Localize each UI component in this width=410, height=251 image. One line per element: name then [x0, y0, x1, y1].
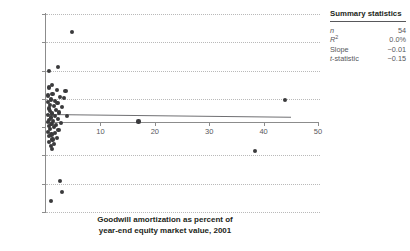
- gridline: [46, 42, 320, 43]
- y-tick-mark: [42, 42, 45, 43]
- data-point: [59, 121, 63, 125]
- data-point: [70, 30, 74, 34]
- summary-statistic-label: t-statistic: [330, 54, 359, 63]
- y-tick-mark: [42, 212, 45, 213]
- data-point: [50, 92, 54, 96]
- summary-statistic-value: 54: [398, 26, 406, 35]
- y-tick-mark: [42, 14, 45, 15]
- x-tick-mark: [318, 122, 319, 126]
- data-point: [65, 114, 69, 118]
- data-point: [55, 136, 59, 140]
- summary-statistic-label: n: [330, 26, 334, 35]
- data-point: [136, 119, 140, 123]
- summary-statistics-title: Summary statistics: [330, 9, 406, 21]
- x-tick-label: 40: [252, 127, 276, 136]
- data-point: [253, 149, 257, 153]
- summary-statistic-row: Slope−0.01: [330, 45, 406, 54]
- gridline: [46, 212, 320, 213]
- x-tick-mark: [155, 122, 156, 126]
- gridline: [46, 71, 320, 72]
- summary-statistic-row: n54: [330, 26, 406, 35]
- summary-statistics-panel: Summary statistics n54R20.0%Slope−0.01t-…: [330, 9, 406, 64]
- x-tick-mark: [100, 122, 101, 126]
- summary-statistic-value: 0.0%: [389, 35, 406, 44]
- data-point: [283, 98, 287, 102]
- x-tick-label: 20: [143, 127, 167, 136]
- caption-line-2: year-end equity market value, 2001: [40, 225, 290, 236]
- plot-area: [46, 14, 318, 212]
- data-point: [52, 125, 56, 129]
- data-point: [55, 88, 59, 92]
- data-point: [47, 69, 51, 73]
- x-tick-mark: [209, 122, 210, 126]
- scatter-chart: 20151050−5−10−15 1020304050 Goodwill amo…: [0, 0, 330, 251]
- data-point: [63, 89, 67, 93]
- data-point: [50, 147, 54, 151]
- summary-statistic-row: R20.0%: [330, 35, 406, 44]
- caption-line-1: Goodwill amortization as percent of: [40, 214, 290, 225]
- summary-statistic-label: Slope: [330, 45, 349, 54]
- data-point: [56, 128, 60, 132]
- chart-caption: Goodwill amortization as percent of year…: [40, 214, 290, 236]
- summary-statistic-label: R2: [330, 35, 338, 44]
- data-point: [47, 85, 51, 89]
- regression-fit-line: [46, 114, 291, 118]
- summary-statistic-value: −0.01: [388, 45, 406, 54]
- gridline: [46, 155, 320, 156]
- data-point: [57, 110, 61, 114]
- data-point: [58, 179, 62, 183]
- data-point: [56, 65, 60, 69]
- y-tick-mark: [42, 99, 45, 100]
- data-point: [49, 199, 53, 203]
- y-tick-mark: [42, 127, 45, 128]
- gridline: [46, 14, 320, 15]
- gridline: [46, 99, 320, 100]
- data-point: [55, 101, 59, 105]
- y-tick-mark: [42, 155, 45, 156]
- x-tick-mark: [264, 122, 265, 126]
- summary-statistic-value: −0.15: [388, 54, 406, 63]
- summary-statistic-row: t-statistic−0.15: [330, 54, 406, 63]
- y-tick-mark: [42, 71, 45, 72]
- y-tick-mark: [42, 184, 45, 185]
- figure-root: 20151050−5−10−15 1020304050 Goodwill amo…: [0, 0, 410, 251]
- gridline: [46, 184, 320, 185]
- data-point: [60, 190, 64, 194]
- x-tick-label: 30: [197, 127, 221, 136]
- x-tick-label: 10: [88, 127, 112, 136]
- summary-divider: [330, 21, 406, 22]
- x-tick-label: 50: [306, 127, 330, 136]
- data-point: [60, 105, 64, 109]
- summary-statistics-rows: n54R20.0%Slope−0.01t-statistic−0.15: [330, 26, 406, 64]
